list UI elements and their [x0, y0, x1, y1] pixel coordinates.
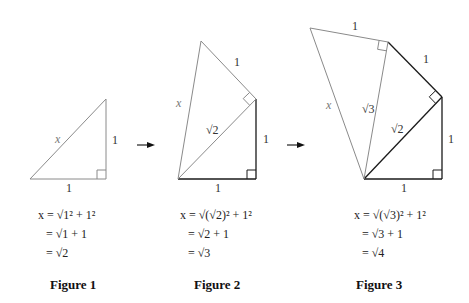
- label-leg-vertical: 1: [112, 133, 118, 147]
- label-hypotenuse-x: x: [325, 98, 332, 112]
- label-leg-horizontal: 1: [401, 181, 407, 195]
- equation-line: = √4: [354, 244, 426, 263]
- equation-line: x = √(√2)² + 1²: [180, 206, 252, 225]
- label-leg-top: 1: [423, 52, 429, 66]
- right-angle-mark: [97, 170, 106, 179]
- arrow-right-icon: [137, 142, 155, 148]
- label-new-leg: 1: [234, 55, 240, 69]
- equation-line: = √1 + 1: [38, 225, 95, 244]
- figure-3-equations: x = √(√3)² + 1² = √3 + 1 = √4: [354, 206, 426, 263]
- figure-1-caption: Figure 1: [50, 277, 96, 293]
- equation-line: x = √(√3)² + 1²: [354, 206, 426, 225]
- label-hypotenuse-x: x: [54, 132, 61, 146]
- label-hypotenuse-x: x: [175, 96, 182, 110]
- label-sqrt3: √3: [362, 102, 375, 116]
- equation-line: = √3 + 1: [354, 225, 426, 244]
- label-leg-vertical: 1: [448, 132, 454, 146]
- right-angle-mark: [429, 91, 435, 104]
- figure-1-triangle: x 1 1: [30, 99, 118, 195]
- equation-line: x = √1² + 1²: [38, 206, 95, 225]
- label-leg-horizontal: 1: [66, 181, 72, 195]
- leg-top: [388, 42, 442, 97]
- label-leg-vertical: 1: [263, 132, 269, 146]
- figure-3-caption: Figure 3: [356, 277, 402, 293]
- right-angle-mark: [433, 170, 442, 179]
- triangle-1: [30, 99, 106, 179]
- equation-line: = √2 + 1: [180, 225, 252, 244]
- figure-3-triangles: x 1 √3 1 √2 1 1: [310, 19, 454, 195]
- new-leg: [201, 41, 256, 99]
- arrow-right-icon: [287, 142, 305, 148]
- figure-2-caption: Figure 2: [194, 277, 240, 293]
- figure-1-equations: x = √1² + 1² = √1 + 1 = √2: [38, 206, 95, 263]
- right-angle-mark: [247, 170, 256, 179]
- figure-2-triangles: x 1 √2 1 1: [175, 41, 269, 195]
- label-diagonal: √2: [391, 122, 404, 136]
- new-leg: [310, 28, 388, 42]
- equation-line: = √3: [180, 244, 252, 263]
- label-diagonal: √2: [206, 123, 219, 137]
- right-angle-mark: [243, 92, 250, 105]
- hypotenuse-x: [310, 28, 364, 179]
- equation-line: = √2: [38, 244, 95, 263]
- label-new-leg: 1: [352, 19, 358, 33]
- diagonal-sqrt2: [364, 97, 442, 179]
- figure-2-equations: x = √(√2)² + 1² = √2 + 1 = √3: [180, 206, 252, 263]
- label-leg-horizontal: 1: [215, 181, 221, 195]
